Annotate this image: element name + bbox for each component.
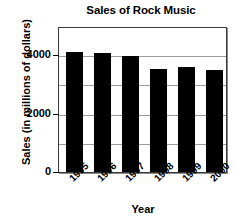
bar — [206, 70, 223, 172]
y-axis-title-label: Sales (in millions of dollars) — [20, 19, 32, 165]
chart-title: Sales of Rock Music — [52, 4, 230, 16]
y-tick-mark — [53, 55, 59, 56]
bar-chart: Sales of Rock Music Sales (in millions o… — [0, 0, 235, 222]
y-tick-mark — [53, 172, 59, 173]
y-tick-label: 2000 — [27, 107, 51, 119]
bar — [94, 53, 111, 172]
x-axis-title: Year — [58, 203, 228, 215]
bar — [122, 56, 139, 172]
bars-group — [59, 28, 226, 172]
y-axis-title: Sales (in millions of dollars) — [16, 12, 32, 172]
bar — [150, 69, 167, 172]
y-tick-mark — [53, 114, 59, 115]
y-tick-label: 4000 — [27, 48, 51, 60]
plot-area — [58, 27, 227, 173]
bar — [66, 52, 83, 172]
y-tick-label: 0 — [45, 165, 51, 177]
bar — [178, 67, 195, 172]
